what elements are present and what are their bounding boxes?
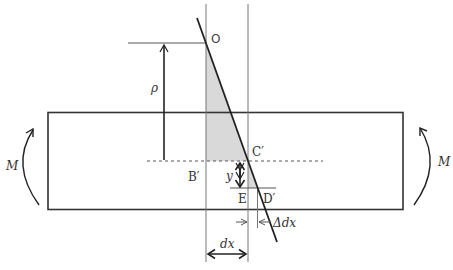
label-rho: ρ [150, 81, 158, 95]
label-M-left: M [5, 159, 19, 173]
label-M-right: M [437, 155, 451, 169]
moment-arc-right [414, 128, 430, 205]
label-dx: dx [220, 237, 235, 251]
beam-bending-diagram: O ρ C′ B′ y E D′ M M dx Δdx [0, 0, 453, 270]
label-C-prime: C′ [252, 145, 264, 159]
label-delta-dx: Δdx [272, 216, 296, 230]
label-O: O [211, 32, 220, 46]
moment-arc-left [23, 130, 39, 205]
label-y: y [225, 169, 233, 183]
label-B-prime: B′ [188, 170, 200, 184]
label-E: E [238, 192, 247, 206]
diagram-svg: O ρ C′ B′ y E D′ M M dx Δdx [0, 0, 453, 270]
label-D-prime: D′ [263, 192, 276, 206]
